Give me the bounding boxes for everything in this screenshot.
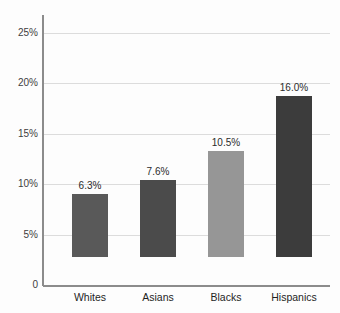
bar-value-blacks: 10.5% — [194, 137, 258, 148]
bar-hispanics[interactable] — [276, 96, 312, 257]
bar-group-whites: 6.3% — [72, 0, 108, 257]
x-category-label-whites: Whites — [51, 291, 129, 303]
bar-group-asians: 7.6% — [140, 0, 176, 257]
bar-asians[interactable] — [140, 180, 176, 257]
bar-value-whites: 6.3% — [58, 180, 122, 191]
x-category-label-asians: Asians — [119, 291, 197, 303]
x-category-label-blacks: Blacks — [187, 291, 265, 303]
x-axis-line — [43, 285, 330, 287]
bar-value-asians: 7.6% — [126, 166, 190, 177]
bar-value-hispanics: 16.0% — [262, 82, 326, 93]
x-category-label-hispanics: Hispanics — [255, 291, 333, 303]
bar-chart: 25% 20% 15% 10% 5% 0 6.3% 7.6% 10.5% 16.… — [0, 0, 340, 313]
bar-blacks[interactable] — [208, 151, 244, 257]
bars-layer: 6.3% 7.6% 10.5% 16.0% — [0, 0, 340, 285]
bar-group-hispanics: 16.0% — [276, 0, 312, 257]
bar-whites[interactable] — [72, 194, 108, 258]
bar-group-blacks: 10.5% — [208, 0, 244, 257]
